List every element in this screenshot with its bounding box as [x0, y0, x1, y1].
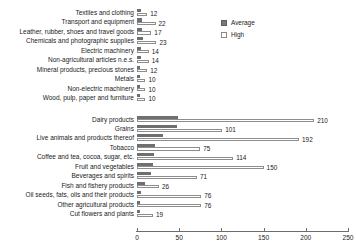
value-label: 210 [317, 117, 328, 124]
value-label: 22 [159, 20, 166, 27]
category-label: Dairy products [92, 116, 134, 123]
value-label: 114 [236, 154, 246, 161]
chart-row: Other agricultural products76 [0, 201, 356, 210]
chart-row: Grains101 [0, 125, 356, 134]
value-label: 19 [156, 211, 163, 218]
bar-high [137, 204, 201, 207]
chart-row: Tobacco75 [0, 144, 356, 153]
chart-row: Coffee and tea, cocoa, sugar, etc.114 [0, 153, 356, 162]
value-label: 76 [204, 202, 211, 209]
category-label: Grains [115, 125, 134, 132]
category-label: Live animals and products thereof [36, 134, 134, 141]
category-label: Leather, rubber, shoes and travel goods [19, 28, 134, 35]
x-axis-tick-label: 100 [216, 234, 227, 242]
bar-high [137, 88, 145, 91]
x-axis-tick [221, 228, 222, 232]
bar-high [137, 176, 197, 179]
x-axis-tick [306, 228, 307, 232]
bar-high [137, 147, 200, 150]
category-label: Electric machinery [81, 47, 134, 54]
value-label: 12 [150, 67, 157, 74]
chart-row: Fish and fishery products26 [0, 182, 356, 191]
bar-high [137, 50, 149, 53]
chart-row: Mineral products, precious stones12 [0, 66, 356, 75]
chart-row: Textiles and clothing12 [0, 9, 356, 18]
value-label: 17 [154, 29, 161, 36]
bar-high [137, 138, 299, 141]
x-axis-tick-label: 0 [135, 234, 139, 242]
value-label: 71 [200, 173, 207, 180]
bar-high [137, 41, 156, 44]
value-label: 14 [152, 48, 159, 55]
chart-row: Non-electric machinery10 [0, 85, 356, 94]
x-axis-line [136, 231, 348, 232]
x-axis-tick-label: 250 [342, 234, 353, 242]
grouped-bar-chart: Average High Textiles and clothing12Tran… [0, 0, 356, 251]
category-label: Coffee and tea, cocoa, sugar, etc. [37, 153, 134, 160]
chart-row: Live animals and products thereof192 [0, 134, 356, 143]
category-label: Other agricultural products [57, 201, 134, 208]
value-label: 76 [204, 192, 211, 199]
bar-high [137, 31, 151, 34]
bar-high [137, 157, 233, 160]
bar-high [137, 166, 264, 169]
category-label: Wood, pulp, paper and furniture [43, 94, 134, 101]
category-label: Textiles and clothing [75, 9, 134, 16]
bar-high [137, 214, 153, 217]
value-label: 192 [302, 136, 313, 143]
category-label: Metals [115, 75, 134, 82]
chart-row: Transport and equipment22 [0, 18, 356, 27]
category-label: Oil seeds, fats, oils and their products [26, 191, 134, 198]
category-label: Non-agricultural articles n.e.s. [48, 56, 134, 63]
category-label: Fruit and vegetables [75, 163, 134, 170]
category-label: Transport and equipment [62, 18, 134, 25]
value-label: 10 [148, 76, 155, 83]
x-axis-tick-label: 50 [176, 234, 183, 242]
chart-row: Cut flowers and plants19 [0, 210, 356, 219]
chart-row: Non-agricultural articles n.e.s.14 [0, 56, 356, 65]
value-label: 101 [225, 126, 236, 133]
category-label: Chemicals and photographic supplies [26, 37, 134, 44]
bar-high [137, 195, 201, 198]
category-label: Beverages and spirits [71, 172, 134, 179]
chart-row: Electric machinery14 [0, 47, 356, 56]
x-axis-tick [179, 228, 180, 232]
bar-high [137, 13, 147, 16]
value-label: 12 [150, 10, 157, 17]
x-axis-tick [264, 228, 265, 232]
x-axis-tick [348, 228, 349, 232]
bar-high [137, 69, 147, 72]
bar-high [137, 79, 145, 82]
bar-high [137, 185, 159, 188]
value-label: 14 [152, 57, 159, 64]
x-axis-tick-label: 150 [258, 234, 269, 242]
category-label: Cut flowers and plants [70, 210, 134, 217]
chart-row: Fruit and vegetables150 [0, 163, 356, 172]
value-label: 75 [203, 145, 210, 152]
bar-high [137, 119, 314, 122]
category-label: Tobacco [110, 144, 134, 151]
bar-high [137, 22, 156, 25]
bar-high [137, 129, 222, 132]
chart-row: Beverages and spirits71 [0, 172, 356, 181]
chart-row: Oil seeds, fats, oils and their products… [0, 191, 356, 200]
value-label: 23 [159, 39, 166, 46]
bar-high [137, 98, 145, 101]
x-axis-tick [137, 228, 138, 232]
value-label: 26 [162, 183, 169, 190]
plot-area: Textiles and clothing12Transport and equ… [0, 0, 356, 251]
x-axis-tick-label: 200 [300, 234, 311, 242]
chart-row: Dairy products210 [0, 116, 356, 125]
chart-row: Metals10 [0, 75, 356, 84]
chart-row: Chemicals and photographic supplies23 [0, 37, 356, 46]
bar-high [137, 60, 149, 63]
category-label: Mineral products, precious stones [37, 66, 134, 73]
value-label: 10 [148, 95, 155, 102]
chart-row: Leather, rubber, shoes and travel goods1… [0, 28, 356, 37]
chart-row: Wood, pulp, paper and furniture10 [0, 94, 356, 103]
category-label: Fish and fishery products [61, 182, 134, 189]
value-label: 10 [148, 86, 155, 93]
category-label: Non-electric machinery [68, 85, 134, 92]
value-label: 150 [267, 164, 278, 171]
